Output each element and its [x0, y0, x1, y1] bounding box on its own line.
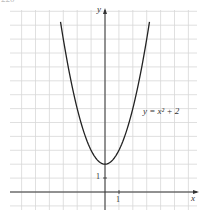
x-axis-label: x [191, 193, 195, 203]
curve-label: y = x² + 2 [143, 106, 179, 116]
y-axis-label: y [97, 4, 101, 14]
x-tick-label: 1 [116, 195, 120, 204]
y-tick-label: 1 [96, 172, 100, 181]
